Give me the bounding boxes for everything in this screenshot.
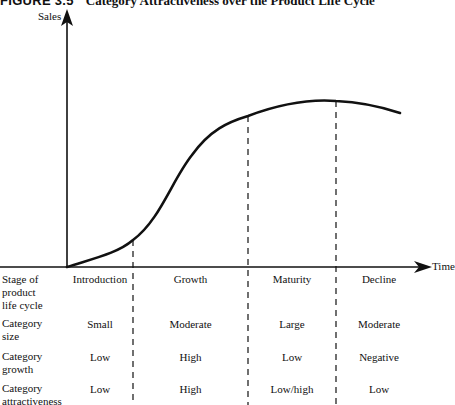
row-label-growth: Category growth <box>2 350 42 376</box>
row-label-size: Category size <box>2 317 42 343</box>
cell-maturity-size: Large <box>248 318 336 330</box>
cell-maturity-growth: Low <box>248 351 336 363</box>
cell-decline-stage: Decline <box>336 273 422 285</box>
sales-curve <box>67 101 400 267</box>
cell-growth-size: Moderate <box>133 318 248 330</box>
cell-maturity-attractiveness: Low/high <box>248 383 336 395</box>
x-axis-label: Time <box>432 260 455 272</box>
cell-growth-growth: High <box>133 351 248 363</box>
row-label-stage: Stage of product life cycle <box>2 273 43 312</box>
cell-introduction-growth: Low <box>67 351 133 363</box>
cell-introduction-size: Small <box>67 318 133 330</box>
cell-decline-growth: Negative <box>336 351 422 363</box>
cell-growth-stage: Growth <box>133 273 248 285</box>
cell-introduction-stage: Introduction <box>67 273 133 285</box>
cell-decline-size: Moderate <box>336 318 422 330</box>
cell-decline-attractiveness: Low <box>336 383 422 395</box>
cell-growth-attractiveness: High <box>133 383 248 395</box>
y-axis-label: Sales <box>38 10 61 22</box>
cell-introduction-attractiveness: Low <box>67 383 133 395</box>
row-label-attractiveness: Category attractiveness <box>2 382 62 405</box>
cell-maturity-stage: Maturity <box>248 273 336 285</box>
